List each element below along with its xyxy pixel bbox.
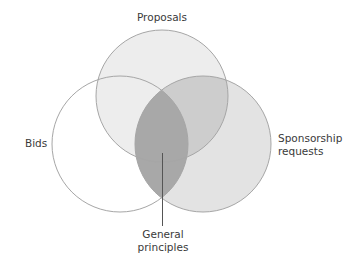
label-sponsorship-line2: requests xyxy=(278,145,342,158)
label-bids: Bids xyxy=(25,137,47,150)
callout-line1: General xyxy=(122,228,204,241)
label-proposals: Proposals xyxy=(132,11,192,24)
label-general-principles: General principles xyxy=(122,228,204,254)
label-sponsorship-line1: Sponsorship xyxy=(278,132,342,145)
callout-line2: principles xyxy=(122,241,204,254)
venn-diagram xyxy=(0,0,354,261)
label-sponsorship: Sponsorship requests xyxy=(278,132,342,158)
